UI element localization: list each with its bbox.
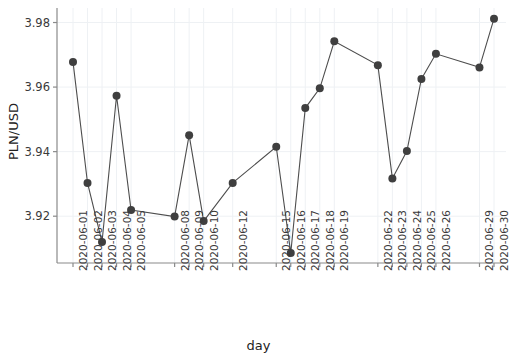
- data-point-marker: 2020-06-29: 3.9661: [475, 63, 483, 71]
- data-point-marker: 2020-06-09: 3.9451: [185, 131, 193, 139]
- y-axis-tick-label: 3.92: [8, 209, 50, 223]
- x-axis-tick-label: 2020-06-09: [193, 210, 205, 271]
- data-point-marker: 2020-06-17: 3.9535: [301, 104, 309, 112]
- x-axis-tick-label: 2020-06-02: [92, 210, 104, 271]
- data-point-marker: 2020-06-22: 3.9668: [374, 61, 382, 69]
- x-axis-tick-label: 2020-06-30: [498, 210, 510, 271]
- data-point-marker: 2020-06-12: 3.9303: [229, 179, 237, 187]
- plot-area: 2020-06-01: 3.96782020-06-02: 3.93032020…: [0, 0, 517, 360]
- chart-figure: PLN/USD 3.923.943.963.98 2020-06-01: 3.9…: [0, 0, 517, 360]
- x-axis-tick-label: 2020-06-12: [237, 210, 249, 271]
- x-axis-tick-label: 2020-06-23: [396, 210, 408, 271]
- x-axis-label: day: [0, 338, 517, 353]
- x-axis-tick-label: 2020-06-01: [77, 210, 89, 271]
- data-point-marker: 2020-06-01: 3.9678: [69, 58, 77, 66]
- x-axis-tick-label: 2020-06-24: [411, 210, 423, 271]
- x-axis-tick-label: 2020-06-17: [309, 210, 321, 271]
- x-axis-tick-label: 2020-06-29: [483, 210, 495, 271]
- x-axis-tick-label: 2020-06-08: [179, 210, 191, 271]
- x-axis-tick-label: 2020-06-15: [280, 210, 292, 271]
- x-axis-tick-label: 2020-06-03: [106, 210, 118, 271]
- x-axis-tick-label: 2020-06-22: [382, 210, 394, 271]
- data-point-marker: 2020-06-25: 3.9625: [417, 75, 425, 83]
- data-point-marker: 2020-06-26: 3.9703: [432, 50, 440, 58]
- data-point-marker: 2020-06-19: 3.9742: [330, 37, 338, 45]
- x-axis-tick-label: 2020-06-05: [135, 210, 147, 271]
- data-point-marker: 2020-06-23: 3.9317: [388, 174, 396, 182]
- x-axis-tick-label: 2020-06-16: [295, 210, 307, 271]
- y-axis-label-container: PLN/USD: [2, 0, 24, 263]
- data-point-marker: 2020-06-24: 3.9402: [403, 147, 411, 155]
- x-axis-tick-label: 2020-06-26: [440, 210, 452, 271]
- x-axis-tick-label: 2020-06-18: [324, 210, 336, 271]
- data-point-marker: 2020-06-30: 3.9812: [490, 15, 498, 23]
- y-axis-tick-label: 3.98: [8, 16, 50, 30]
- data-point-marker: 2020-06-18: 3.9596: [316, 84, 324, 92]
- data-point-marker: 2020-06-04: 3.9573: [113, 92, 121, 100]
- data-point-marker: 2020-06-02: 3.9303: [84, 179, 92, 187]
- x-axis-tick-label: 2020-06-19: [338, 210, 350, 271]
- y-axis-tick-label: 3.96: [8, 80, 50, 94]
- data-point-marker: 2020-06-15: 3.9415: [272, 143, 280, 151]
- x-axis-tick-label: 2020-06-10: [208, 210, 220, 271]
- data-point-marker: 2020-06-08: 3.9199: [171, 213, 179, 221]
- x-axis-tick-label: 2020-06-25: [425, 210, 437, 271]
- y-axis-tick-label: 3.94: [8, 145, 50, 159]
- x-axis-tick-label: 2020-06-04: [121, 210, 133, 271]
